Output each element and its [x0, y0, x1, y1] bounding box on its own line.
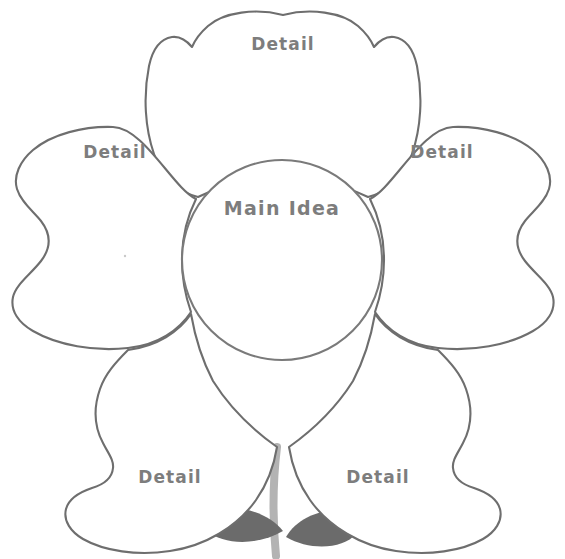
center-circle-main-idea[interactable]: [182, 160, 382, 360]
flower-diagram-canvas: [0, 0, 565, 559]
scan-speck: [124, 255, 126, 257]
flower-graphic-organizer: Main Idea Detail Detail Detail Detail De…: [0, 0, 565, 559]
